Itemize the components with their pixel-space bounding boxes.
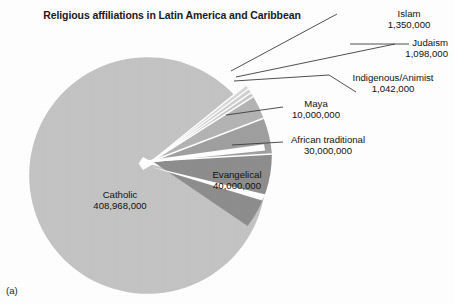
label-maya: Maya 10,000,000 — [274, 98, 358, 121]
label-evangelical-name: Evangelical — [196, 169, 278, 180]
label-judaism-value: 1,098,000 — [340, 48, 448, 59]
label-judaism: Judaism 1,098,000 — [340, 37, 448, 60]
label-maya-value: 10,000,000 — [274, 109, 358, 120]
label-islam: Islam 1,350,000 — [372, 8, 446, 31]
label-catholic-name: Catholic — [64, 189, 176, 200]
label-evangelical: Evangelical 40,000,000 — [196, 169, 278, 192]
label-islam-name: Islam — [372, 8, 446, 19]
label-african-value: 30,000,000 — [276, 145, 380, 156]
pie-chart-figure: Religious affiliations in Latin America … — [0, 0, 454, 304]
label-african-name: African traditional — [276, 134, 380, 145]
label-indigenous: Indigenous/Animist 1,042,000 — [334, 72, 452, 95]
label-indigenous-name: Indigenous/Animist — [334, 72, 452, 83]
leader-line-islam — [231, 14, 337, 71]
label-catholic: Catholic 408,968,000 — [64, 189, 176, 212]
label-islam-value: 1,350,000 — [372, 19, 446, 30]
label-evangelical-value: 40,000,000 — [196, 180, 278, 191]
panel-letter: (a) — [6, 285, 18, 296]
label-african: African traditional 30,000,000 — [276, 134, 380, 157]
label-indigenous-value: 1,042,000 — [334, 83, 452, 94]
label-judaism-name: Judaism — [340, 37, 448, 48]
label-catholic-value: 408,968,000 — [64, 200, 176, 211]
leader-line-indigenous — [234, 75, 329, 81]
label-maya-name: Maya — [274, 98, 358, 109]
